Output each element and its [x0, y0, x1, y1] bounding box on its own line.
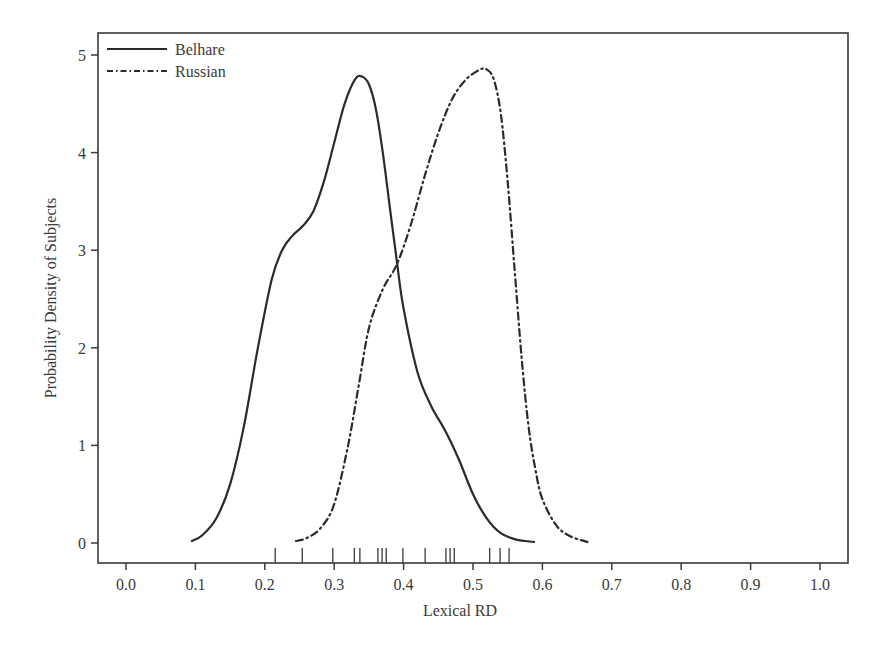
x-tick-label: 0.6	[532, 576, 552, 593]
density-curve-belhare	[192, 76, 534, 542]
x-axis: 0.00.10.20.30.40.50.60.70.80.91.0	[116, 563, 830, 593]
y-tick-label: 5	[78, 47, 86, 64]
density-curves	[192, 68, 588, 542]
x-tick-label: 0.3	[324, 576, 344, 593]
rug-marks	[275, 548, 509, 563]
y-axis: 012345	[78, 47, 98, 552]
y-tick-label: 4	[78, 145, 86, 162]
x-tick-label: 0.7	[602, 576, 622, 593]
legend-label-russian: Russian	[175, 63, 226, 80]
x-tick-label: 0.9	[741, 576, 761, 593]
y-axis-title: Probability Density of Subjects	[42, 198, 60, 398]
x-tick-label: 0.5	[463, 576, 483, 593]
plot-frame	[98, 33, 848, 563]
x-tick-label: 0.8	[671, 576, 691, 593]
x-axis-title: Lexical RD	[423, 602, 497, 619]
density-chart: 0.00.10.20.30.40.50.60.70.80.91.0 012345…	[0, 0, 891, 652]
x-tick-label: 1.0	[810, 576, 830, 593]
legend: Belhare Russian	[107, 41, 226, 80]
x-tick-label: 0.4	[394, 576, 414, 593]
x-tick-label: 0.2	[255, 576, 275, 593]
y-tick-label: 3	[78, 242, 86, 259]
y-tick-label: 0	[78, 535, 86, 552]
y-tick-label: 1	[78, 437, 86, 454]
density-curve-russian	[296, 68, 588, 542]
x-tick-label: 0.0	[116, 576, 136, 593]
legend-label-belhare: Belhare	[175, 41, 225, 58]
y-tick-label: 2	[78, 340, 86, 357]
x-tick-label: 0.1	[185, 576, 205, 593]
